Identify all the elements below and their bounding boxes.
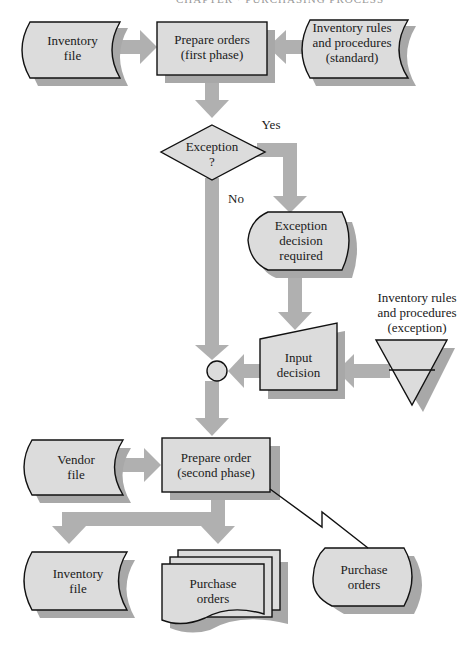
label-purchase-orders-docs: Purchase orders [162, 576, 264, 606]
label-line: Prepare orders [157, 32, 267, 47]
label-line: Input [260, 350, 337, 365]
label-line: Purchase [162, 576, 264, 591]
label-line: Exception [170, 139, 254, 154]
label-line: orders [316, 577, 412, 592]
label-inventory-file-top: Inventory file [30, 33, 115, 63]
label-line: (second phase) [162, 465, 270, 480]
label-line: Purchase [316, 562, 412, 577]
label-yes: Yes [256, 117, 286, 132]
label-line: (standard) [302, 50, 402, 65]
label-vendor-file: Vendor file [32, 452, 120, 482]
arrow-yes-path [257, 143, 307, 213]
arrow-required-to-input [278, 272, 312, 330]
label-line: (exception) [362, 320, 472, 335]
label-line: Inventory [32, 566, 124, 581]
label-line: Prepare order [162, 450, 270, 465]
label-line: Inventory [30, 33, 115, 48]
label-purchase-orders-display: Purchase orders [316, 562, 412, 592]
label-line: file [30, 48, 115, 63]
label-line: ? [170, 154, 254, 169]
communication-link [270, 489, 368, 548]
label-line: and procedures [302, 35, 402, 50]
label-input-decision: Input decision [260, 350, 337, 380]
label-line: Exception [256, 218, 346, 233]
label-line: and procedures [362, 305, 472, 320]
label-line: decision [260, 365, 337, 380]
label-prepare-orders-first: Prepare orders (first phase) [157, 32, 267, 62]
label-rules-exception: Inventory rules and procedures (exceptio… [362, 290, 472, 335]
label-no: No [224, 191, 248, 206]
label-inventory-file-bottom: Inventory file [32, 566, 124, 596]
label-rules-standard: Inventory rules and procedures (standard… [302, 20, 402, 65]
label-line: Inventory rules [362, 290, 472, 305]
label-exception-required: Exception decision required [256, 218, 346, 263]
label-line: orders [162, 591, 264, 606]
arrow-input-to-connector [228, 354, 262, 388]
label-line: Vendor [32, 452, 120, 467]
label-line: Inventory rules [302, 20, 402, 35]
label-line: file [32, 467, 120, 482]
label-line: required [256, 248, 346, 263]
arrow-connector-to-second [195, 381, 229, 436]
shape-connector [207, 361, 227, 381]
label-line: (first phase) [157, 47, 267, 62]
label-line: file [32, 581, 124, 596]
label-exception-decision: Exception ? [170, 139, 254, 169]
label-prepare-order-second: Prepare order (second phase) [162, 450, 270, 480]
label-line: decision [256, 233, 346, 248]
